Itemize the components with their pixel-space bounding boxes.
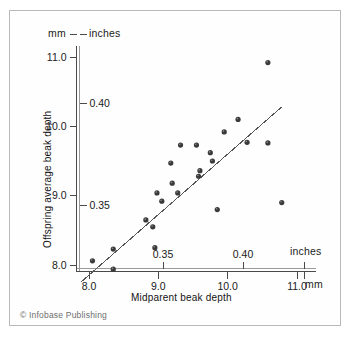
data-point	[168, 160, 173, 165]
data-point-highlight	[112, 247, 114, 249]
data-point-highlight	[160, 200, 162, 202]
data-point	[244, 140, 249, 145]
x-tick-label-inches: 0.40	[233, 248, 254, 260]
data-point	[279, 200, 284, 205]
data-point	[154, 190, 159, 195]
data-point	[152, 245, 157, 250]
y-tick-label-mm: 8.0	[52, 259, 67, 271]
figure-container: 11.010.09.08.00.400.358.09.010.011.00.35…	[0, 0, 351, 349]
axes-group	[77, 46, 316, 272]
x-tick-label-mm: 11.0	[287, 280, 307, 292]
data-point-highlight	[266, 141, 268, 143]
data-point-highlight	[176, 191, 178, 193]
data-point	[150, 224, 155, 229]
data-point-highlight	[280, 201, 282, 203]
x-tick-label-mm: 8.0	[82, 280, 97, 292]
data-point-highlight	[198, 169, 200, 171]
data-point	[159, 199, 164, 204]
data-point	[111, 267, 116, 272]
data-point-highlight	[246, 141, 248, 143]
x-tick-label-mm: 9.0	[151, 280, 166, 292]
data-point-highlight	[153, 246, 155, 248]
data-point-highlight	[223, 130, 225, 132]
data-point	[196, 174, 201, 179]
data-point-highlight	[155, 191, 157, 193]
data-point-highlight	[151, 225, 153, 227]
data-point-highlight	[195, 143, 197, 145]
data-point	[194, 142, 199, 147]
data-point-highlight	[171, 182, 173, 184]
data-point	[197, 168, 202, 173]
data-point	[170, 181, 175, 186]
publisher-credit: © Infobase Publishing	[20, 310, 107, 320]
data-point	[215, 207, 220, 212]
data-point	[208, 150, 213, 155]
y-tick-label-inches: 0.35	[90, 199, 111, 211]
x-axis-unit-inches: inches	[290, 246, 322, 257]
data-point-highlight	[209, 151, 211, 153]
data-points-group	[90, 60, 284, 272]
y-tick-label-inches: 0.40	[90, 97, 111, 109]
data-point	[222, 129, 227, 134]
x-tick-label-mm: 10.0	[217, 280, 238, 292]
data-point-highlight	[211, 159, 213, 161]
y-axis-title: Offspring average beak depth	[42, 111, 53, 248]
x-axis-title: Midparent beak depth	[131, 292, 232, 303]
data-point-highlight	[144, 218, 146, 220]
y-axis-unit-inches: inches	[89, 28, 121, 39]
data-point-highlight	[266, 61, 268, 63]
data-point	[178, 142, 183, 147]
data-point-highlight	[169, 161, 171, 163]
data-point-highlight	[216, 208, 218, 210]
data-point-highlight	[237, 118, 239, 120]
data-point	[265, 60, 270, 65]
data-point	[143, 217, 148, 222]
tick-marks-group: 11.010.09.08.00.400.358.09.010.011.00.35…	[46, 34, 307, 292]
data-point-highlight	[112, 268, 114, 270]
data-point	[235, 117, 240, 122]
y-tick-label-mm: 11.0	[47, 51, 67, 63]
y-axis-unit-mm: mm	[48, 28, 66, 39]
data-point	[265, 140, 270, 145]
data-point	[111, 246, 116, 251]
data-point-highlight	[179, 143, 181, 145]
x-axis-unit-mm: mm	[305, 279, 323, 290]
data-point	[175, 190, 180, 195]
data-point-highlight	[197, 175, 199, 177]
data-point	[210, 158, 215, 163]
data-point	[90, 258, 95, 263]
data-point-highlight	[91, 259, 93, 261]
y-tick-label-mm: 9.0	[52, 189, 67, 201]
